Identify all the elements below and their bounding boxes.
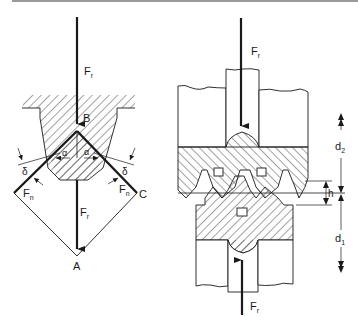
d1-arrow-down2-icon <box>338 266 344 273</box>
upper-right-block <box>259 89 308 147</box>
engineering-diagram: Fr B α α δ δ Fn Fn C Fr A <box>0 0 358 327</box>
delta-label-left: δ <box>22 166 28 177</box>
normal-arrow-right <box>108 178 118 184</box>
d2-arrow-down-icon <box>338 186 344 193</box>
force-label-bottom: Fr <box>80 206 90 220</box>
right-panel: Fr Fr h d2 d1 <box>178 18 345 315</box>
upper-notch-2 <box>257 168 266 176</box>
point-c-label: C <box>139 188 147 200</box>
delta-label-right: δ <box>122 166 128 177</box>
delta-tick-left <box>18 148 22 160</box>
upper-notch-1 <box>214 168 223 176</box>
point-a-label: A <box>73 260 81 272</box>
alpha-label-right: α <box>84 147 89 157</box>
triangle-side-left <box>14 193 77 256</box>
h-label: h <box>328 188 334 199</box>
h-arrow-down-icon <box>323 198 329 205</box>
top-rule <box>12 0 358 2</box>
d2-arrow-up-icon <box>338 113 344 120</box>
normal-arrow-left <box>34 178 43 185</box>
d2-arrow-up2-icon <box>338 119 344 126</box>
d1-label: d1 <box>335 232 345 246</box>
upper-left-block <box>178 85 226 147</box>
d2-label: d2 <box>335 140 345 154</box>
lower-right-block <box>258 240 293 286</box>
h-arrow-up-icon <box>323 181 329 188</box>
left-panel: Fr B α α δ δ Fn Fn C Fr A <box>14 17 147 272</box>
point-b-label: B <box>83 112 90 124</box>
force-label-bottom-right: Fr <box>250 300 260 314</box>
alpha-label-left: α <box>62 148 67 158</box>
delta-tick-right <box>130 148 135 160</box>
normal-label-left: Fn <box>23 187 34 201</box>
force-label-top: Fr <box>84 65 94 79</box>
force-label-top-right: Fr <box>251 45 261 59</box>
triangle-side-right <box>77 193 137 256</box>
lower-left-block <box>196 240 228 287</box>
lower-notch-1 <box>237 208 247 216</box>
